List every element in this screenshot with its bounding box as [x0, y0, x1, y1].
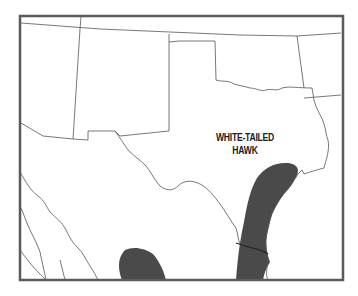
range-area-mexico-patch	[119, 248, 166, 280]
range-area-coastal	[236, 163, 298, 280]
species-label: WHITE-TAILED HAWK	[208, 131, 282, 157]
boundary-lines	[20, 17, 341, 280]
range-map	[0, 0, 358, 296]
map-frame	[20, 16, 343, 280]
species-label-line1: WHITE-TAILED	[208, 131, 282, 144]
species-label-line2: HAWK	[208, 144, 282, 157]
